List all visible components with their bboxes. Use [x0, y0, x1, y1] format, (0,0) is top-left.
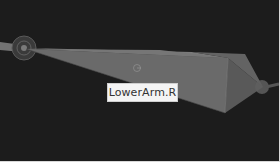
elbow-joint-sphere[interactable]	[12, 36, 36, 60]
wrist-joint-sphere[interactable]	[255, 80, 279, 94]
bone-name-tooltip: LowerArm.R	[107, 83, 178, 102]
armature-canvas[interactable]	[0, 0, 279, 161]
lower-arm-bone[interactable]	[26, 48, 263, 113]
3d-viewport[interactable]	[0, 0, 280, 162]
